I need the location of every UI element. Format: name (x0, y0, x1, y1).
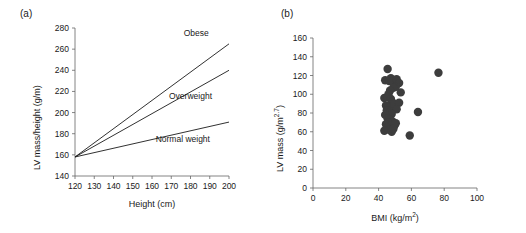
svg-text:80: 80 (439, 193, 449, 203)
panel-b-y-axis-title: LV mass (g/m2.7) (273, 105, 285, 172)
svg-text:20: 20 (341, 193, 351, 203)
svg-text:200: 200 (55, 108, 69, 118)
svg-text:Overweight: Overweight (169, 91, 213, 101)
svg-text:190: 190 (203, 181, 217, 191)
panel-b-y-ticks: 020406080100120140160 (293, 33, 313, 193)
svg-text:80: 80 (298, 108, 308, 118)
svg-text:140: 140 (106, 181, 120, 191)
panel-b: (b) 020406080100120140160 020406080100 B… (263, 0, 526, 233)
panel-b-y-axis-title-main: LV mass (g/m (275, 117, 285, 172)
svg-text:60: 60 (407, 193, 417, 203)
svg-text:170: 170 (164, 181, 178, 191)
svg-text:180: 180 (55, 129, 69, 139)
svg-text:120: 120 (293, 71, 307, 81)
svg-text:140: 140 (293, 52, 307, 62)
svg-text:0: 0 (302, 183, 307, 193)
svg-text:60: 60 (298, 127, 308, 137)
svg-text:160: 160 (145, 181, 159, 191)
panel-b-data-points (380, 65, 443, 140)
panel-b-y-axis-title-sup: 2.7 (273, 108, 280, 117)
svg-text:220: 220 (55, 86, 69, 96)
panel-b-x-axis-title-main: BMI (kg/m (371, 213, 412, 223)
panel-b-plot: 020406080100120140160 020406080100 (263, 0, 526, 233)
svg-text:40: 40 (298, 146, 308, 156)
panel-a-series-labels: ObeseOverweightNormal weight (156, 28, 213, 144)
figure-container: (a) 140160180200220240260280 12013014015… (0, 0, 526, 233)
panel-a-x-axis-title: Height (cm) (75, 199, 229, 209)
svg-text:280: 280 (55, 23, 69, 33)
svg-text:260: 260 (55, 44, 69, 54)
svg-text:180: 180 (183, 181, 197, 191)
panel-a-y-ticks: 140160180200220240260280 (55, 23, 75, 181)
svg-text:100: 100 (293, 89, 307, 99)
panel-a-x-ticks: 120130140150160170180190200 (68, 176, 236, 191)
svg-text:150: 150 (126, 181, 140, 191)
panel-b-x-axis-title: BMI (kg/m2) (313, 211, 477, 223)
svg-text:120: 120 (68, 181, 82, 191)
panel-b-x-axis-title-tail: ) (416, 213, 419, 223)
svg-text:140: 140 (55, 171, 69, 181)
svg-text:Normal weight: Normal weight (156, 134, 211, 144)
panel-a-y-axis-title: LV mass/height (g/m) (32, 85, 42, 170)
panel-b-x-ticks: 020406080100 (311, 188, 485, 203)
svg-text:20: 20 (298, 164, 308, 174)
svg-text:160: 160 (55, 150, 69, 160)
svg-text:Obese: Obese (184, 28, 209, 38)
panel-a: (a) 140160180200220240260280 12013014015… (0, 0, 263, 233)
svg-text:130: 130 (87, 181, 101, 191)
svg-text:240: 240 (55, 65, 69, 75)
svg-text:100: 100 (470, 193, 484, 203)
svg-text:200: 200 (222, 181, 236, 191)
svg-text:160: 160 (293, 33, 307, 43)
svg-text:0: 0 (311, 193, 316, 203)
svg-text:40: 40 (374, 193, 384, 203)
panel-b-y-axis-title-tail: ) (275, 105, 285, 108)
